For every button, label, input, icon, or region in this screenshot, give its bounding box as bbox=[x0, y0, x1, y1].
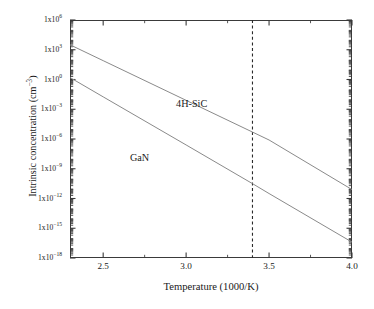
y-axis-tick-label: 1x10−18 bbox=[0, 254, 62, 262]
y-axis-tick-label: 1x10−15 bbox=[0, 224, 62, 232]
x-axis-tick-label: 3.5 bbox=[251, 262, 287, 271]
intrinsic-carrier-concentration-chart: 1x1061x1031x1001x10−31x10−61x10−91x10−12… bbox=[0, 0, 374, 309]
y-axis-tick-label: 1x106 bbox=[0, 16, 62, 24]
series-annotation-4h-sic: 4H-SiC bbox=[176, 99, 207, 109]
x-axis-tick-label: 3.0 bbox=[168, 262, 204, 271]
x-axis-tick-label: 4.0 bbox=[334, 262, 370, 271]
x-axis-tick-label: 2.5 bbox=[85, 262, 121, 271]
x-axis-title: Temperature (1000/K) bbox=[70, 282, 352, 293]
series-annotation-gan: GaN bbox=[130, 153, 149, 163]
y-axis-title: Intrinsic concentration (cm−3) bbox=[28, 51, 38, 221]
plot-frame bbox=[70, 20, 352, 258]
